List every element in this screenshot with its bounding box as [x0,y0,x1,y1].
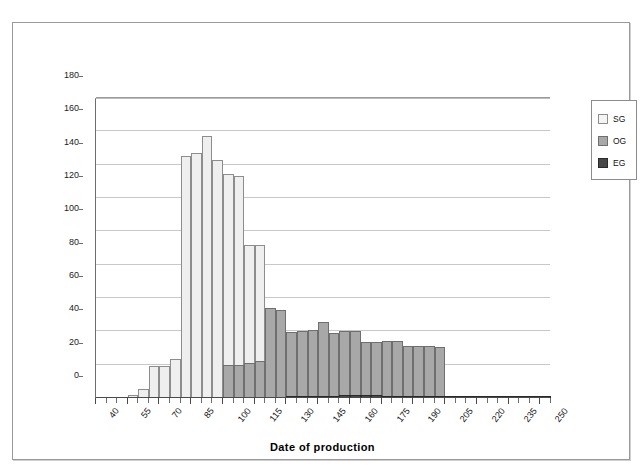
y-tick-label-100: 100 [51,203,79,213]
x-tick-mark-210 [455,398,456,403]
x-tick-label-160: 160 [363,406,380,424]
legend-item-eg: EG [598,152,636,174]
y-tick-label-80: 80 [51,237,79,247]
legend-item-og: OG [598,130,636,152]
figure-border: SG OG EG Nos of vessels 0204060801001201… [12,22,630,460]
x-tick-mark-80 [180,398,181,403]
x-tick-label-190: 190 [426,406,443,424]
x-axis-tick-marks [95,398,550,404]
x-tick-mark-50 [116,398,117,403]
gridline-180 [96,97,550,98]
bar-og-110 [244,363,255,398]
x-tick-mark-230 [497,398,498,403]
x-tick-mark-255 [550,398,551,403]
x-tick-mark-70 [158,398,159,404]
x-tick-label-100: 100 [236,406,253,424]
legend-swatch-sg [598,114,608,124]
bar-sg-95 [212,160,223,398]
x-tick-mark-180 [391,398,392,403]
y-tick-mark-100 [79,209,83,210]
bar-sg-80 [181,156,192,398]
x-tick-mark-245 [529,398,530,403]
legend-label-eg: EG [613,159,625,168]
bar-og-165 [361,342,372,398]
y-tick-mark-140 [79,143,83,144]
x-tick-mark-170 [370,398,371,403]
bar-og-120 [265,308,276,398]
x-tick-mark-240 [518,398,519,403]
y-tick-mark-20 [79,343,83,344]
x-tick-mark-205 [444,398,445,404]
x-tick-mark-55 [127,398,128,404]
x-tick-mark-225 [487,398,488,403]
x-tick-mark-130 [285,398,286,404]
bar-og-145 [318,322,329,398]
x-tick-mark-155 [338,398,339,403]
gridline-140 [96,164,550,165]
y-tick-mark-40 [79,309,83,310]
bar-sg-70 [159,366,170,398]
gridline-120 [96,197,550,198]
x-tick-mark-195 [423,398,424,403]
bar-og-185 [403,346,414,399]
x-axis-title: Date of production [95,441,550,453]
x-tick-label-115: 115 [267,406,284,423]
x-tick-label-145: 145 [331,406,348,424]
bar-og-105 [234,365,245,398]
legend-swatch-eg [598,158,608,168]
bar-og-125 [276,310,287,398]
x-tick-label-220: 220 [490,406,507,424]
bar-og-190 [413,346,424,399]
y-tick-label-40: 40 [51,303,79,313]
gridline-100 [96,230,550,231]
x-tick-mark-90 [201,398,202,403]
x-tick-mark-160 [349,398,350,404]
x-tick-mark-145 [317,398,318,404]
x-tick-mark-200 [434,398,435,403]
x-tick-mark-105 [233,398,234,403]
x-tick-label-85: 85 [202,406,216,420]
x-tick-mark-235 [508,398,509,404]
x-tick-label-205: 205 [458,406,475,424]
bar-sg-65 [149,366,160,398]
x-tick-mark-115 [254,398,255,404]
legend-item-sg: SG [598,108,636,130]
x-tick-mark-60 [137,398,138,403]
y-tick-label-0: 0 [51,370,79,380]
y-tick-mark-120 [79,176,83,177]
x-tick-label-55: 55 [139,406,153,420]
bar-og-160 [350,331,361,399]
x-tick-mark-190 [412,398,413,404]
x-tick-label-70: 70 [170,406,184,420]
x-tick-mark-100 [222,398,223,404]
y-tick-label-60: 60 [51,270,79,280]
y-tick-label-120: 120 [51,170,79,180]
y-tick-label-160: 160 [51,103,79,113]
x-tick-mark-125 [275,398,276,403]
x-tick-mark-215 [465,398,466,403]
x-tick-mark-165 [360,398,361,403]
x-tick-mark-45 [106,398,107,403]
x-tick-mark-65 [148,398,149,403]
chart-legend: SG OG EG [591,100,637,180]
bar-og-100 [223,365,234,398]
y-tick-mark-60 [79,276,83,277]
x-tick-mark-135 [296,398,297,403]
x-tick-label-235: 235 [521,406,538,424]
legend-label-sg: SG [613,115,625,124]
x-tick-mark-40 [95,398,96,404]
x-tick-mark-95 [211,398,212,403]
x-tick-mark-185 [402,398,403,403]
bar-og-200 [435,347,446,398]
x-tick-mark-85 [190,398,191,404]
y-tick-mark-0 [79,376,83,377]
bar-og-130 [286,332,297,398]
x-tick-mark-110 [243,398,244,403]
x-tick-mark-250 [539,398,540,404]
y-tick-mark-180 [79,76,83,77]
bar-sg-75 [170,359,181,398]
gridline-60 [96,297,550,298]
x-tick-label-250: 250 [553,406,570,424]
x-tick-mark-75 [169,398,170,403]
legend-swatch-og [598,136,608,146]
